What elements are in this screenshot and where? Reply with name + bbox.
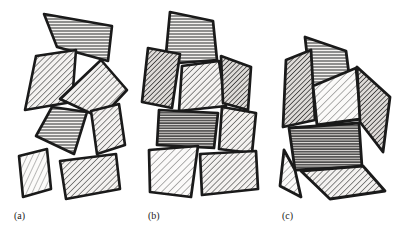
panel-label-c: (c) [282,210,293,222]
grain-a-6 [19,149,51,197]
grain-c-2 [283,50,315,127]
grain-structure-figure: (a) (b) (c) [0,0,414,231]
grain-b-3 [179,61,226,111]
grain-b-2 [142,48,180,108]
panel-label-b: (b) [148,210,160,222]
grain-a-5 [91,104,125,154]
grain-b-8 [200,151,258,195]
grain-b-4 [221,56,251,110]
figure-canvas: (a) (b) (c) [0,0,414,231]
grain-b-6 [219,107,256,153]
grain-c-5 [289,123,362,170]
grain-b-7 [149,146,198,197]
panel-label-a: (a) [14,210,25,222]
grain-b-5 [157,110,218,148]
